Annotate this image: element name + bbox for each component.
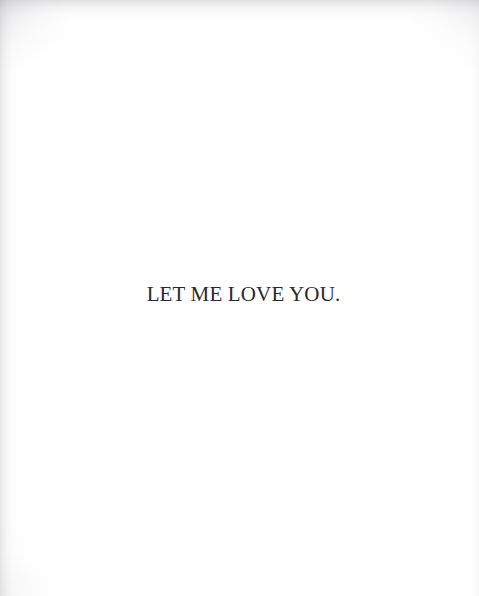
scan-vignette-corner-top-left xyxy=(0,0,70,70)
scan-vignette-top xyxy=(0,0,479,26)
page-canvas: LET ME LOVE YOU. xyxy=(0,0,479,596)
quote-text: LET ME LOVE YOU. xyxy=(0,282,479,306)
scan-vignette-corner-top-right xyxy=(409,0,479,70)
scan-vignette-corner-bottom-left xyxy=(0,526,70,596)
